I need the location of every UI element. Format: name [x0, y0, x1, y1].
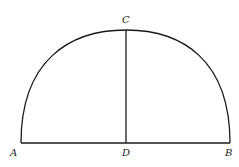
label-a: A: [9, 147, 17, 158]
figure-canvas: A B C D: [0, 0, 239, 167]
label-d: D: [121, 147, 130, 158]
geometry-figure: A B C D: [0, 0, 239, 167]
label-b: B: [224, 147, 232, 158]
label-c: C: [122, 14, 130, 25]
